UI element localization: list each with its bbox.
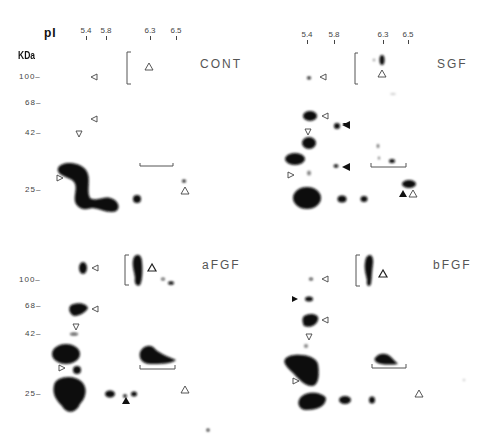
gel-spots-canvas	[0, 0, 493, 446]
open-triangle-left-icon	[322, 276, 328, 282]
bracket-icon	[355, 53, 358, 84]
bracket-icon	[356, 255, 360, 286]
open-triangle-left-icon	[92, 306, 98, 312]
open-triangle-right-icon	[293, 378, 299, 384]
panel-cont	[57, 52, 189, 212]
panel-sgf	[285, 53, 417, 209]
gel-figure: pI 5.4 5.8 6.3 6.5 5.4 5.8 6.3 6.5 KDa 1…	[0, 0, 493, 446]
open-triangle-right-icon	[59, 365, 65, 371]
open-triangle-down-icon	[305, 129, 311, 135]
bracket-icon	[125, 255, 129, 285]
filled-arrowhead-icon	[342, 163, 350, 171]
open-triangle-up-icon	[148, 264, 156, 271]
open-triangle-left-icon	[322, 113, 328, 119]
open-triangle-right-icon	[288, 172, 294, 178]
open-triangle-up-icon	[145, 63, 153, 70]
open-triangle-down-icon	[76, 131, 82, 137]
open-triangle-left-icon	[91, 74, 97, 80]
open-triangle-up-icon	[379, 270, 387, 277]
bracket-icon	[371, 163, 406, 167]
bracket-icon	[127, 52, 131, 84]
open-triangle-up-icon	[181, 187, 189, 194]
panel-bfgf	[284, 255, 465, 410]
open-triangle-left-icon	[91, 116, 97, 122]
bracket-icon	[372, 364, 406, 368]
filled-arrowhead-icon	[292, 296, 298, 302]
bracket-icon	[140, 365, 175, 369]
filled-arrowhead-icon	[122, 397, 130, 404]
open-triangle-down-icon	[306, 334, 312, 340]
bracket-icon	[140, 163, 173, 166]
open-triangle-up-icon	[415, 390, 423, 397]
open-triangle-left-icon	[92, 265, 98, 271]
filled-arrowhead-icon	[399, 190, 407, 197]
open-triangle-down-icon	[73, 324, 79, 330]
open-triangle-up-icon	[409, 190, 417, 197]
open-triangle-left-icon	[322, 317, 328, 323]
open-triangle-up-icon	[181, 386, 189, 393]
open-triangle-up-icon	[378, 70, 386, 77]
filled-arrowhead-icon	[342, 121, 350, 129]
panel-afgf	[52, 255, 210, 432]
open-triangle-right-icon	[57, 175, 63, 181]
open-triangle-left-icon	[320, 74, 326, 80]
